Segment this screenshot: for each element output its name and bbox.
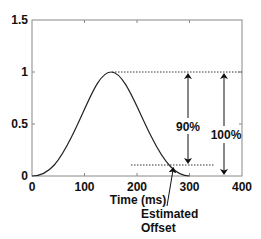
annotation-100pct: 100% [211, 128, 242, 142]
annotation-estimated-offset-line1: Estimated [141, 207, 198, 221]
x-tick-label: 200 [127, 180, 147, 194]
annotation-90pct: 90% [176, 120, 200, 134]
chart: 0 0.5 1 1.5 0 100 200 300 400 Time (ms) … [0, 0, 261, 239]
y-tick-label: 1.5 [11, 13, 28, 27]
x-tick-label: 0 [29, 180, 36, 194]
arrow-estimated-offset [167, 170, 173, 206]
y-tick-label: 0.5 [11, 117, 28, 131]
signal-curve [32, 72, 190, 176]
annotation-estimated-offset-line2: Offset [141, 221, 176, 235]
x-tick-label: 300 [179, 180, 199, 194]
x-tick-label: 400 [232, 180, 252, 194]
y-tick-label: 1 [21, 65, 28, 79]
y-tick-label: 0 [21, 169, 28, 183]
x-axis-label: Time (ms) [110, 193, 166, 207]
x-tick-label: 100 [74, 180, 94, 194]
